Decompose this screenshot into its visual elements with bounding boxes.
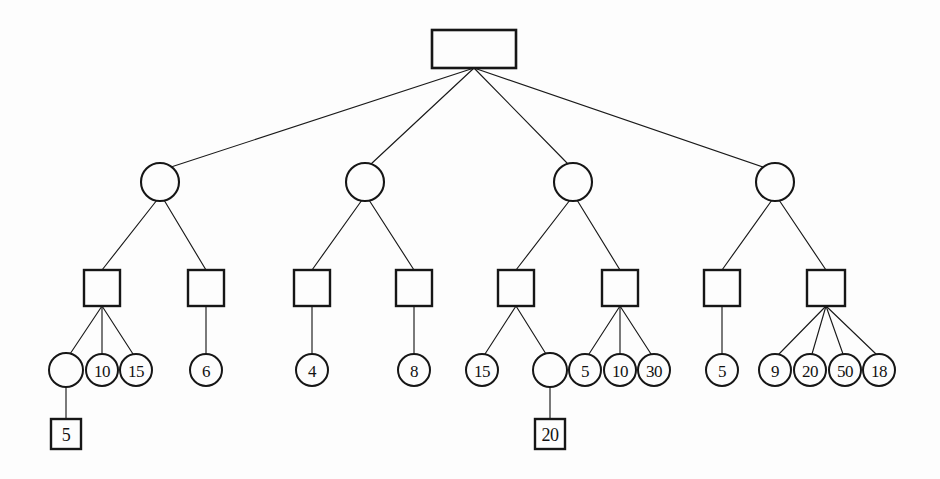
tree-node-l2[interactable]: 10 (86, 354, 118, 386)
tree-node-l9[interactable]: 5 (569, 354, 601, 386)
tree-node-c4[interactable] (756, 163, 794, 201)
tree-node-l11[interactable]: 30 (638, 354, 670, 386)
node-circle[interactable] (49, 353, 83, 387)
tree-node-l1[interactable] (49, 353, 83, 387)
tree-diagram-svg: 1015648155103059205018520 (0, 0, 940, 479)
node-circle[interactable] (533, 353, 567, 387)
node-value-label: 10 (94, 362, 110, 381)
tree-node-l10[interactable]: 10 (604, 354, 636, 386)
node-value-label: 50 (837, 362, 853, 381)
tree-node-s2[interactable] (188, 270, 224, 306)
tree-node-l3[interactable]: 15 (120, 354, 152, 386)
node-circle[interactable] (756, 163, 794, 201)
tree-node-c2[interactable] (346, 163, 384, 201)
tree-node-l16[interactable]: 18 (863, 354, 895, 386)
node-value-label: 6 (202, 362, 210, 381)
node-value-label: 9 (771, 362, 779, 381)
node-value-label: 18 (871, 362, 887, 381)
tree-node-s6[interactable] (602, 270, 638, 306)
node-circle[interactable] (141, 163, 179, 201)
node-value-label: 15 (474, 362, 490, 381)
node-value-label: 20 (542, 425, 560, 445)
tree-node-c3[interactable] (554, 163, 592, 201)
node-square[interactable] (602, 270, 638, 306)
tree-node-c1[interactable] (141, 163, 179, 201)
node-square[interactable] (396, 270, 432, 306)
tree-node-s7[interactable] (704, 270, 740, 306)
node-circle[interactable] (346, 163, 384, 201)
tree-node-l5[interactable]: 4 (296, 354, 328, 386)
node-value-label: 20 (802, 362, 818, 381)
node-square[interactable] (498, 270, 534, 306)
tree-node-l8[interactable] (533, 353, 567, 387)
tree-node-l4[interactable]: 6 (190, 354, 222, 386)
tree-node-l12[interactable]: 5 (706, 354, 738, 386)
node-value-label: 5 (62, 425, 71, 445)
tree-node-l15[interactable]: 50 (829, 354, 861, 386)
node-square[interactable] (294, 270, 330, 306)
node-value-label: 10 (612, 362, 628, 381)
node-square[interactable] (704, 270, 740, 306)
tree-diagram-canvas: 1015648155103059205018520 (0, 0, 940, 479)
tree-node-l13[interactable]: 9 (759, 354, 791, 386)
tree-node-l14[interactable]: 20 (794, 354, 826, 386)
node-square[interactable] (188, 270, 224, 306)
tree-node-s5[interactable] (498, 270, 534, 306)
node-square[interactable] (807, 270, 845, 306)
node-root-rect[interactable] (432, 30, 516, 68)
node-value-label: 5 (581, 362, 589, 381)
node-square[interactable] (84, 270, 120, 306)
tree-node-root[interactable] (432, 30, 516, 68)
tree-node-s8[interactable] (807, 270, 845, 306)
node-value-label: 15 (128, 362, 144, 381)
node-circle[interactable] (554, 163, 592, 201)
tree-node-l6[interactable]: 8 (398, 354, 430, 386)
node-value-label: 4 (308, 362, 317, 381)
node-value-label: 5 (718, 362, 726, 381)
tree-node-s3[interactable] (294, 270, 330, 306)
tree-node-s4[interactable] (396, 270, 432, 306)
node-value-label: 8 (410, 362, 418, 381)
tree-node-l7[interactable]: 15 (466, 354, 498, 386)
tree-node-b1[interactable]: 5 (51, 419, 81, 449)
node-value-label: 30 (646, 362, 662, 381)
tree-node-b2[interactable]: 20 (535, 419, 565, 449)
tree-node-s1[interactable] (84, 270, 120, 306)
